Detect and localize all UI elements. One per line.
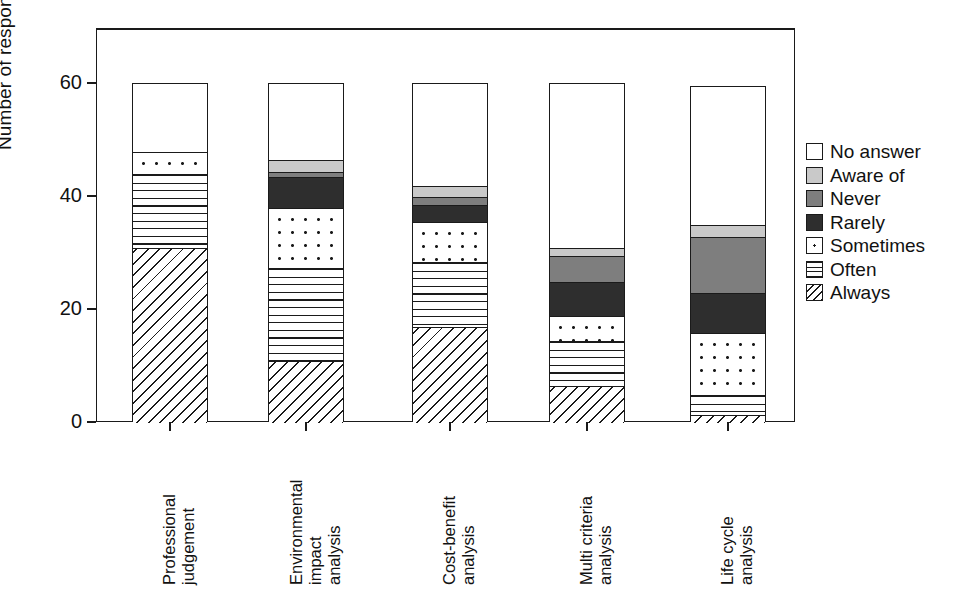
x-axis-label-line: analysis xyxy=(737,516,756,585)
bar-segment-no-answer xyxy=(413,84,487,186)
x-axis-label-line: Life cycle xyxy=(718,516,737,585)
legend-item[interactable]: Always xyxy=(806,281,956,305)
bar-segment-often xyxy=(413,262,487,327)
legend-item[interactable]: Aware of xyxy=(806,164,956,188)
legend-item[interactable]: Rarely xyxy=(806,211,956,235)
legend-item[interactable]: Often xyxy=(806,258,956,282)
bar-segment-no-answer xyxy=(133,84,207,152)
bar-segment-sometimes xyxy=(413,222,487,262)
x-axis-label: Cost-benefitanalysis xyxy=(440,496,478,585)
x-axis-label-line: analysis xyxy=(596,496,615,585)
stacked-bar xyxy=(268,83,344,422)
bar-segment-sometimes xyxy=(269,208,343,267)
x-tick-mark xyxy=(727,422,729,431)
legend-label: Rarely xyxy=(830,213,885,232)
x-axis-label-line: Multi criteria xyxy=(577,496,596,585)
x-axis-label-line: Environmental xyxy=(287,480,306,585)
bar-segment-never xyxy=(550,256,624,281)
legend-label: Never xyxy=(830,189,881,208)
x-axis-label: Professionaljudgement xyxy=(160,494,198,585)
bar-segment-always xyxy=(413,327,487,423)
bar-segment-aware-of xyxy=(550,248,624,256)
legend-item[interactable]: Sometimes xyxy=(806,234,956,258)
bar-segment-sometimes xyxy=(550,316,624,341)
legend-label: Always xyxy=(830,283,890,302)
x-axis-label: Multi criteriaanalysis xyxy=(577,496,615,585)
bar-segment-rarely xyxy=(691,293,765,333)
bar-segment-sometimes xyxy=(133,152,207,175)
x-tick-mark xyxy=(305,422,307,431)
stacked-bar xyxy=(549,83,625,422)
legend: No answerAware ofNeverRarelySometimesOft… xyxy=(806,140,956,305)
chart-figure: Number of responses 0204060 Professional… xyxy=(0,0,964,600)
bar-segment-always xyxy=(269,361,343,423)
bar-segment-sometimes xyxy=(691,333,765,395)
legend-swatch-icon xyxy=(806,284,823,301)
bar-segment-aware-of xyxy=(691,225,765,236)
x-tick-mark xyxy=(449,422,451,431)
legend-label: Often xyxy=(830,260,876,279)
bar-segment-rarely xyxy=(269,177,343,208)
legend-swatch-icon xyxy=(806,167,823,184)
x-axis-label-line: analysis xyxy=(459,496,478,585)
legend-swatch-icon xyxy=(806,214,823,231)
bar-segment-never xyxy=(413,197,487,205)
stacked-bar xyxy=(412,83,488,422)
bar-segment-always xyxy=(550,386,624,423)
legend-label: No answer xyxy=(830,142,921,161)
bar-segment-never xyxy=(691,237,765,294)
x-axis-label-line: judgement xyxy=(179,494,198,585)
x-axis-label-line: impact xyxy=(306,480,325,585)
legend-swatch-icon xyxy=(806,237,823,254)
bar-segment-rarely xyxy=(413,205,487,222)
legend-swatch-icon xyxy=(806,190,823,207)
legend-swatch-icon xyxy=(806,261,823,278)
legend-item[interactable]: No answer xyxy=(806,140,956,164)
bar-segment-often xyxy=(550,341,624,386)
bar-segment-always xyxy=(133,248,207,423)
stacked-bar xyxy=(132,83,208,422)
bar-segment-no-answer xyxy=(269,84,343,160)
x-axis-label: Environmentalimpactanalysis xyxy=(287,480,344,585)
bar-segment-often xyxy=(269,268,343,361)
x-tick-mark xyxy=(586,422,588,431)
legend-swatch-icon xyxy=(806,143,823,160)
bar-segment-aware-of xyxy=(413,186,487,197)
bar-segment-rarely xyxy=(550,282,624,316)
bar-segment-often xyxy=(691,395,765,415)
x-axis-label-line: analysis xyxy=(325,480,344,585)
bar-segment-often xyxy=(133,174,207,247)
x-tick-mark xyxy=(169,422,171,431)
stacked-bar xyxy=(690,86,766,422)
x-axis-label: Life cycleanalysis xyxy=(718,516,756,585)
x-axis-label-line: Professional xyxy=(160,494,179,585)
bar-segment-no-answer xyxy=(550,84,624,248)
bar-segment-aware-of xyxy=(269,160,343,171)
legend-item[interactable]: Never xyxy=(806,187,956,211)
legend-label: Sometimes xyxy=(830,236,925,255)
x-axis-label-line: Cost-benefit xyxy=(440,496,459,585)
bar-segment-no-answer xyxy=(691,87,765,225)
legend-label: Aware of xyxy=(830,166,905,185)
